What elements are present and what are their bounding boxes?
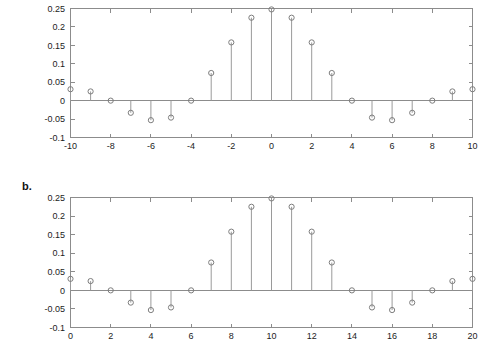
y-tick-label: 0: [60, 96, 65, 106]
x-tick-label: 0: [68, 331, 73, 341]
x-tick-label: -8: [107, 141, 115, 151]
figure-container: -0.1-0.0500.050.10.150.20.25-10-8-6-4-20…: [0, 0, 502, 349]
plot-panel-a: -0.1-0.0500.050.10.150.20.25-10-8-6-4-20…: [0, 0, 502, 175]
x-tick-label: -4: [187, 141, 195, 151]
plot-panel-b: -0.1-0.0500.050.10.150.20.25024681012141…: [0, 175, 502, 349]
x-tick-label: 12: [307, 331, 317, 341]
x-tick-label: -6: [147, 141, 155, 151]
y-tick-label: 0.1: [52, 248, 65, 258]
y-tick-label: 0.05: [47, 267, 65, 277]
stem-plot-a: -0.1-0.0500.050.10.150.20.25-10-8-6-4-20…: [0, 0, 502, 175]
x-tick-label: 10: [467, 141, 477, 151]
x-tick-label: 2: [108, 331, 113, 341]
x-tick-label: 18: [427, 331, 437, 341]
y-tick-label: 0.1: [52, 59, 65, 69]
x-tick-label: 0: [269, 141, 274, 151]
x-tick-label: 14: [347, 331, 357, 341]
y-tick-label: 0.05: [47, 77, 65, 87]
y-tick-label: -0.1: [49, 133, 65, 143]
y-tick-label: 0.2: [52, 211, 65, 221]
x-tick-label: -10: [64, 141, 77, 151]
x-tick-label: 8: [430, 141, 435, 151]
axes-group: -0.1-0.0500.050.10.150.20.25024681012141…: [44, 193, 477, 341]
y-tick-label: -0.05: [44, 304, 65, 314]
x-tick-label: 8: [229, 331, 234, 341]
data-series-group: [68, 7, 475, 123]
y-tick-label: -0.1: [49, 323, 65, 333]
axes-group: -0.1-0.0500.050.10.150.20.25-10-8-6-4-20…: [44, 4, 477, 151]
x-tick-label: 6: [189, 331, 194, 341]
x-tick-label: 6: [390, 141, 395, 151]
data-series-group: [68, 196, 475, 313]
y-tick-label: 0.15: [47, 230, 65, 240]
y-tick-label: 0.2: [52, 22, 65, 32]
x-tick-label: 2: [309, 141, 314, 151]
y-tick-label: 0.15: [47, 41, 65, 51]
x-tick-label: 16: [387, 331, 397, 341]
stem-plot-b: -0.1-0.0500.050.10.150.20.25024681012141…: [0, 175, 502, 349]
x-tick-label: 4: [349, 141, 354, 151]
y-tick-label: 0: [60, 286, 65, 296]
x-tick-label: 20: [467, 331, 477, 341]
y-tick-label: 0.25: [47, 4, 65, 14]
x-tick-label: -2: [227, 141, 235, 151]
y-tick-label: -0.05: [44, 114, 65, 124]
x-tick-label: 4: [148, 331, 153, 341]
x-tick-label: 10: [266, 331, 276, 341]
y-tick-label: 0.25: [47, 193, 65, 203]
